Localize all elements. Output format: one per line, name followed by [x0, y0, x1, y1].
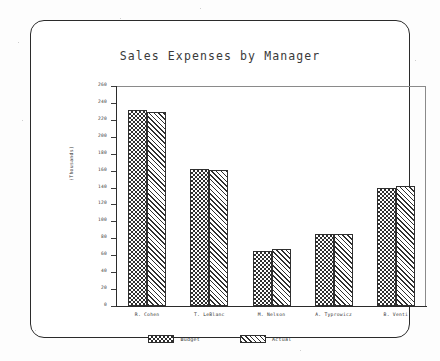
bar-actual	[209, 170, 228, 306]
scan-speckle	[410, 300, 411, 301]
scan-speckle	[18, 42, 19, 43]
x-axis-line	[116, 306, 427, 307]
y-axis-tick-label: 20	[101, 285, 107, 290]
y-axis-tick-label: 200	[98, 133, 107, 138]
y-axis-tick-label: 180	[98, 150, 107, 155]
page-background: Sales Expenses by Manager (Thousands) 26…	[0, 0, 440, 361]
legend-label: Budget	[180, 336, 200, 342]
bar-budget	[253, 251, 272, 306]
legend-item: Budget	[148, 335, 200, 343]
y-axis-tick-label: 140	[98, 184, 107, 189]
y-axis-tick-label: 120	[98, 200, 107, 205]
y-axis-tick-label: 220	[98, 116, 107, 121]
scan-speckle	[35, 330, 36, 331]
legend-swatch-budget	[148, 335, 174, 343]
scan-speckle	[415, 60, 416, 61]
bar-group: B. Venti	[377, 86, 415, 306]
chart-frame: Sales Expenses by Manager (Thousands) 26…	[30, 20, 410, 338]
y-axis-tick-label: 260	[98, 82, 107, 87]
bar-actual	[147, 112, 166, 306]
bar-budget	[128, 110, 147, 306]
bar-actual	[272, 249, 291, 306]
y-axis-tick-label: 40	[101, 268, 107, 273]
y-axis-tick-label: 100	[98, 217, 107, 222]
bar-actual	[396, 186, 415, 306]
x-axis-category-label: A. Typrowicz	[315, 312, 352, 317]
y-axis-tick-label: 80	[101, 234, 107, 239]
legend-item: Actual	[240, 335, 292, 343]
x-axis-category-label: M. Nelson	[258, 312, 286, 317]
legend-label: Actual	[272, 336, 292, 342]
x-axis-category-label: T. LeBlanc	[194, 312, 225, 317]
bar-group: A. Typrowicz	[315, 86, 353, 306]
y-axis-tick-label: 160	[98, 167, 107, 172]
bar-group: M. Nelson	[253, 86, 291, 306]
x-axis-category-label: R. Cohen	[135, 312, 160, 317]
x-axis-category-label: B. Venti	[384, 312, 409, 317]
bar-group: R. Cohen	[128, 86, 166, 306]
scan-speckle	[300, 350, 301, 351]
y-axis-tick-label: 240	[98, 99, 107, 104]
bar-budget	[315, 234, 334, 306]
legend-swatch-actual	[240, 335, 266, 343]
bar-budget	[377, 188, 396, 306]
bars-layer: R. CohenT. LeBlancM. NelsonA. TyprowiczB…	[116, 86, 427, 306]
scan-speckle	[22, 120, 23, 121]
bar-actual	[334, 234, 353, 306]
y-axis-label: (Thousands)	[69, 146, 74, 181]
scan-speckle	[120, 18, 121, 19]
scan-speckle	[200, 8, 201, 9]
y-axis-tick-label: 60	[101, 251, 107, 256]
chart-legend: BudgetActual	[31, 335, 409, 343]
bar-group: T. LeBlanc	[190, 86, 228, 306]
chart-title: Sales Expenses by Manager	[31, 49, 409, 63]
y-axis-tick-label: 0	[104, 302, 107, 307]
bar-budget	[190, 169, 209, 306]
